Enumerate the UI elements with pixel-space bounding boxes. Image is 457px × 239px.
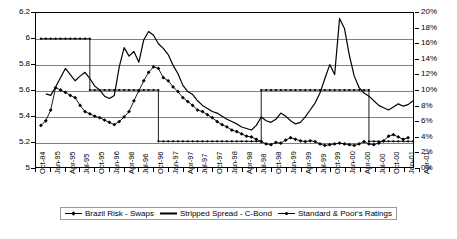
x-axis-tick [35,168,36,172]
series-brazil-risk-swaps-point [303,140,307,144]
y-axis-right-tick-label: 12% [421,69,449,78]
y-axis-right-tick [415,137,419,138]
x-axis-tick-label: Jan-97 [171,151,180,174]
series-brazil-risk-swaps-point [142,79,146,83]
legend-marker-icon [65,209,82,218]
y-axis-right-tick-label: 8% [421,101,449,110]
plot-area [35,12,414,168]
series-brazil-risk-swaps-point [98,116,102,120]
series-brazil-risk-swaps-point [352,144,356,148]
y-axis-right-tick-label: 14% [421,54,449,63]
x-axis-tick [256,168,257,172]
y-axis-right-tick [415,121,419,122]
x-axis-tick [197,168,198,172]
x-axis-tick [79,168,80,172]
x-axis-tick [389,168,390,172]
y-axis-right-tick-label: 18% [421,23,449,32]
x-axis-tick-label: Jul-99 [319,154,328,174]
x-axis-tick [212,168,213,172]
series-brazil-risk-swaps-point [250,135,254,139]
y-axis-right-tick-label: 6% [421,116,449,125]
series-brazil-risk-swaps-point [318,142,322,146]
x-axis-tick [316,168,317,172]
x-axis-tick [94,168,95,172]
legend-item[interactable]: Stripped Spread - C-Bond [160,209,272,218]
x-axis-tick-label: Apr-01 [422,151,431,174]
x-axis-tick-label: Oct-84 [38,151,47,174]
x-axis-tick [65,168,66,172]
series-brazil-risk-swaps-point [264,142,268,146]
series-brazil-risk-swaps-point [308,139,312,143]
x-axis-tick-label: Jan-01 [407,151,416,174]
series-brazil-risk-swaps-line [41,67,408,146]
legend-item[interactable]: Brazil Risk - Swaps [65,209,154,218]
series-brazil-risk-swaps-point [396,135,400,139]
x-axis-tick-label: Apr-00 [363,151,372,174]
series-brazil-risk-swaps-point [323,144,327,148]
y-axis-left-tick-label: 6.2 [0,7,30,16]
series-brazil-risk-swaps-point [298,139,302,143]
x-axis-tick-label: Jan-96 [112,151,121,174]
y-axis-right-tick [415,106,419,107]
series-brazil-risk-swaps-point [338,141,342,145]
x-axis-tick [168,168,169,172]
series-brazil-risk-swaps-point [88,112,92,116]
legend-label: Stripped Spread - C-Bond [180,209,272,218]
x-axis-tick-label: Apr-98 [245,151,254,174]
x-axis-tick-label: Jan-95 [53,151,62,174]
y-axis-left-tick-label: 6 [0,33,30,42]
y-axis-left-tick-label: 5.6 [0,85,30,94]
y-axis-right-tick [415,28,419,29]
chart-legend: Brazil Risk - SwapsStripped Spread - C-B… [60,207,397,220]
x-axis-tick [271,168,272,172]
legend-label: Standard & Poor's Ratings [298,209,392,218]
x-axis-tick [301,168,302,172]
y-axis-left-tick-label: 5.8 [0,59,30,68]
x-axis-tick [183,168,184,172]
x-axis-tick-label: Oct-95 [97,151,106,174]
x-axis-tick-label: Apr-97 [186,151,195,174]
series-brazil-risk-swaps-point [59,88,63,92]
x-axis-tick [375,168,376,172]
y-axis-right-tick [415,59,419,60]
legend-item[interactable]: Standard & Poor's Ratings [278,209,392,218]
x-axis-tick [138,168,139,172]
series-brazil-risk-swaps-point [328,143,332,147]
series-brazil-risk-swaps-point [103,118,107,122]
legend-label: Brazil Risk - Swaps [85,209,154,218]
x-axis-tick-label: Jul-97 [200,154,209,174]
y-axis-right-tick-label: 4% [421,132,449,141]
series-brazil-risk-swaps-point [392,133,396,137]
x-axis-tick-label: Jan-98 [230,151,239,174]
x-axis-tick-label: Apr-99 [304,151,313,174]
series-brazil-risk-swaps-point [313,140,317,144]
series-brazil-risk-swaps-point [132,99,136,103]
x-axis-tick [360,168,361,172]
series-brazil-risk-swaps-point [289,136,293,140]
series-brazil-risk-swaps-point [240,132,244,136]
x-axis-tick-label: Jul-96 [141,154,150,174]
x-axis-tick-label: Jul-00 [378,154,387,174]
series-layer [36,13,413,167]
x-axis-tick-label: Oct-97 [215,151,224,174]
y-axis-right-tick-label: 10% [421,85,449,94]
x-axis-tick-label: Jul-98 [259,154,268,174]
series-brazil-risk-swaps-point [235,130,239,134]
x-axis-tick [153,168,154,172]
series-brazil-risk-swaps-point [108,120,112,124]
series-brazil-risk-swaps-point [49,108,53,112]
x-axis-tick-label: Jul-95 [82,154,91,174]
x-axis-tick [109,168,110,172]
legend-marker-icon [160,209,177,218]
y-axis-left-tick-label: 5.2 [0,137,30,146]
x-axis-tick-label: Oct-99 [333,151,342,174]
series-brazil-risk-swaps-point [406,136,410,140]
y-axis-left-tick-label: 5.4 [0,111,30,120]
x-axis-tick-label: Apr-96 [127,151,136,174]
series-brazil-risk-swaps-point [294,137,298,141]
y-axis-left-tick-label: 5 [0,163,30,172]
series-brazil-risk-swaps-point [274,140,278,144]
x-axis-tick-label: Oct-00 [392,151,401,174]
series-stripped-spread-cbond-line [46,18,413,130]
series-brazil-risk-swaps-point [93,114,97,118]
